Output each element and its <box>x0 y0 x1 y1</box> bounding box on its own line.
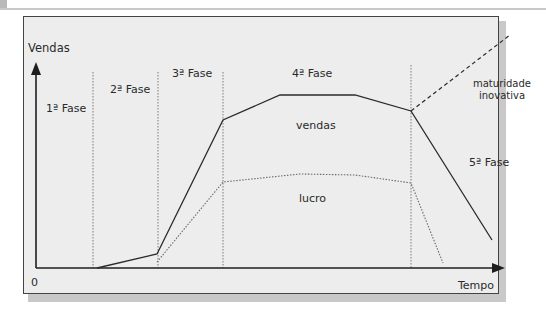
y-axis-label: Vendas <box>28 41 70 55</box>
phase-label-5: 5ª Fase <box>469 156 509 169</box>
origin-label: 0 <box>31 276 38 289</box>
x-axis-label: Tempo <box>458 279 494 292</box>
phase-label-2: 2ª Fase <box>110 83 150 96</box>
phase-label-3: 3ª Fase <box>172 67 212 80</box>
sales-curve-label: vendas <box>296 119 336 132</box>
sales-curve <box>97 95 492 268</box>
phase-label-1: 1ª Fase <box>46 102 86 115</box>
profit-curve <box>157 174 443 263</box>
innovation-label-line-1: maturidade <box>462 78 542 90</box>
profit-curve-label: lucro <box>299 192 326 205</box>
innovation-label: maturidade inovativa <box>462 78 542 102</box>
y-axis-arrow-icon <box>31 62 41 75</box>
product-life-cycle-diagram <box>0 0 546 315</box>
innovation-label-line-2: inovativa <box>462 90 542 102</box>
x-axis-arrow-icon <box>492 263 505 273</box>
phase-label-4: 4ª Fase <box>292 67 332 80</box>
